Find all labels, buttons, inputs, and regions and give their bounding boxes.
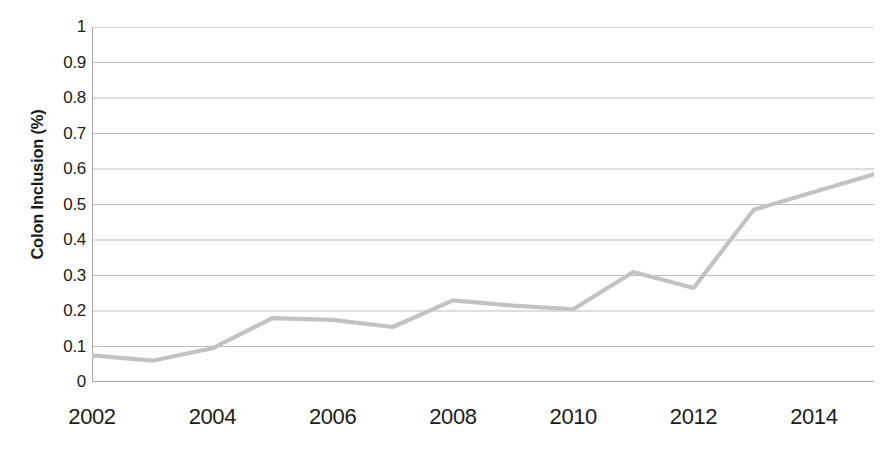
plot-svg: [92, 27, 874, 382]
x-axis-tick-label: 2010: [528, 404, 618, 430]
x-axis-tick-label: 2012: [649, 404, 739, 430]
x-axis-tick-label: 2006: [288, 404, 378, 430]
data-series-line-colon-inclusion: [92, 174, 874, 360]
colon-inclusion-line-chart: Colon Inclusion (%) 10.90.80.70.60.50.40…: [0, 0, 883, 449]
x-axis-tick-label: 2004: [167, 404, 257, 430]
x-axis-tick-label: 2002: [47, 404, 137, 430]
x-axis-tick-label: 2014: [769, 404, 859, 430]
x-axis-tick-label: 2008: [408, 404, 498, 430]
plot-area: [92, 27, 874, 382]
